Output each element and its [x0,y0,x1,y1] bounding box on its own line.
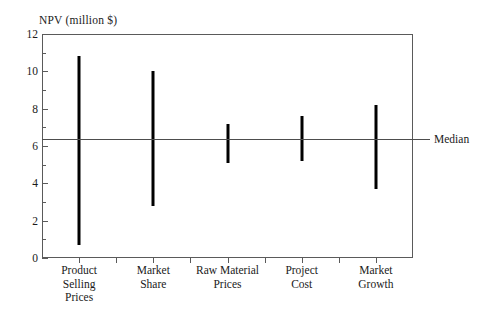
y-tick-major [42,71,48,72]
sensitivity-chart: NPV (million $) 024681012 ProductSelling… [0,0,479,321]
x-tick-boundary [265,258,266,263]
x-tick-center [79,258,80,263]
x-axis-category-label: MarketGrowth [333,264,419,291]
median-line [42,139,430,140]
y-tick-minor [42,165,46,166]
y-tick-major [42,34,48,35]
y-tick-minor [42,202,46,203]
chart-axis-title: NPV (million $) [39,14,117,26]
y-tick-minor [42,239,46,240]
x-axis-category-label-line: Market [110,264,196,278]
x-tick-boundary [339,258,340,263]
y-tick-label: 10 [4,65,38,77]
y-tick-minor [42,127,46,128]
y-tick-major [42,221,48,222]
y-tick-major [42,258,48,259]
y-tick-label: 6 [4,140,38,152]
x-tick-boundary [190,258,191,263]
range-bar [78,56,81,245]
x-axis-category-label: ProductSellingPrices [36,264,122,305]
y-tick-label: 8 [4,103,38,115]
x-axis-category-label: MarketShare [110,264,196,291]
x-axis-category-label-line: Product [36,264,122,278]
y-tick-minor [42,90,46,91]
x-tick-center [153,258,154,263]
x-axis-category-label: Raw MaterialPrices [185,264,271,291]
x-axis-category-label-line: Cost [259,278,345,292]
x-axis-category-label-line: Market [333,264,419,278]
x-axis-category-label-line: Selling [36,278,122,292]
x-axis-category-label-line: Project [259,264,345,278]
y-tick-major [42,183,48,184]
x-axis-category-label-line: Prices [185,278,271,292]
y-tick-label: 4 [4,177,38,189]
x-tick-center [302,258,303,263]
x-tick-center [376,258,377,263]
y-tick-label: 12 [4,28,38,40]
x-axis-category-label-line: Raw Material [185,264,271,278]
x-tick-boundary [116,258,117,263]
y-tick-major [42,146,48,147]
x-axis-category-label-line: Growth [333,278,419,292]
range-bar [374,105,377,189]
median-label: Median [434,133,469,145]
x-tick-center [228,258,229,263]
y-tick-minor [42,53,46,54]
x-axis-category-label-line: Share [110,278,196,292]
y-tick-label: 2 [4,215,38,227]
range-bar [226,124,229,163]
y-tick-major [42,109,48,110]
x-axis-category-label: ProjectCost [259,264,345,291]
y-tick-label: 0 [4,252,38,264]
x-axis-category-label-line: Prices [36,291,122,305]
